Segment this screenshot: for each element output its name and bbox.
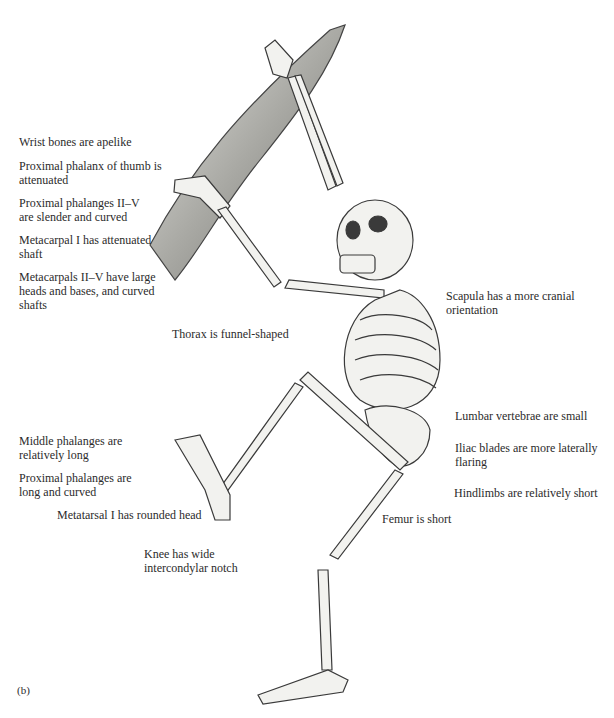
label-proximal-phalanges-hand: Proximal phalanges II–V are slender and … <box>19 196 149 224</box>
label-lumbar-vertebrae: Lumbar vertebrae are small <box>455 409 610 423</box>
eye-socket-right <box>369 216 387 232</box>
label-wrist-bones: Wrist bones are apelike <box>19 135 194 149</box>
eye-socket-left <box>346 221 360 239</box>
label-scapula: Scapula has a more cranial orientation <box>446 289 586 317</box>
label-knee: Knee has wide intercondylar notch <box>144 547 269 575</box>
right-forearm-bone-2 <box>295 75 343 186</box>
left-upper-arm-bone <box>285 280 384 298</box>
label-proximal-phalanges-foot: Proximal phalanges are long and curved <box>19 471 144 499</box>
label-middle-phalanges-foot: Middle phalanges are relatively long <box>19 434 139 462</box>
foot-right <box>258 670 348 704</box>
label-femur: Femur is short <box>382 512 482 526</box>
label-iliac-blades: Iliac blades are more laterally flaring <box>455 441 605 469</box>
tibia-left <box>215 383 303 497</box>
label-metacarpals-ii-v: Metacarpals II–V have large heads and ba… <box>19 270 164 312</box>
label-metatarsal-i: Metatarsal I has rounded head <box>57 508 217 522</box>
skeleton-illustration <box>0 0 614 718</box>
right-forearm-bone <box>288 76 336 190</box>
tibia-right <box>318 570 332 670</box>
label-proximal-phalanx-thumb: Proximal phalanx of thumb is attenuated <box>19 159 164 187</box>
label-metacarpal-i: Metacarpal I has attenuated shaft <box>19 233 154 261</box>
label-thorax: Thorax is funnel-shaped <box>172 327 352 341</box>
jaw <box>340 255 375 273</box>
label-hindlimbs: Hindlimbs are relatively short <box>454 486 614 500</box>
right-hand-bone <box>265 40 293 78</box>
ribcage <box>344 290 440 410</box>
left-forearm-bone <box>218 207 281 287</box>
panel-label: (b) <box>17 683 30 697</box>
